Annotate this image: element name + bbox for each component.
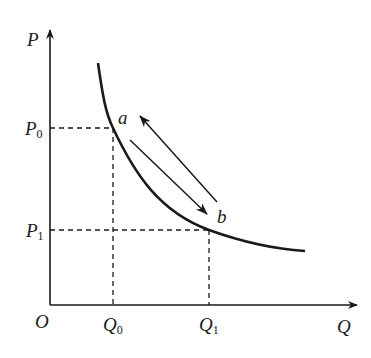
- quantity-label-q1: Q1: [199, 315, 219, 336]
- x-axis-label: Q: [337, 317, 351, 336]
- point-label-b: b: [217, 207, 227, 226]
- origin-label: O: [35, 312, 49, 331]
- diagram-canvas: [0, 0, 371, 358]
- price-label-p0: P0: [25, 119, 43, 140]
- demand-curve: [98, 63, 305, 251]
- point-label-a: a: [118, 108, 128, 127]
- demand-curve-diagram: P Q O P0 P1 Q0 Q1 a b: [0, 0, 371, 358]
- quantity-label-q0: Q0: [103, 315, 123, 336]
- y-axis-label: P: [27, 30, 39, 49]
- price-label-p1: P1: [26, 221, 44, 242]
